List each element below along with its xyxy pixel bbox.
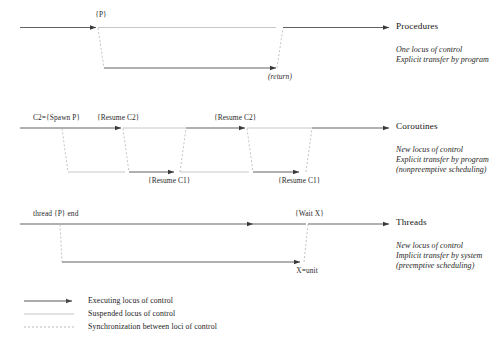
threads-description-line-3: (preemptive scheduling) [396,261,482,271]
section-title-coroutines: Coroutines [396,121,438,131]
coroutines-resume-c2-sync-1 [123,129,129,173]
procedures-call-label: {P} [95,10,107,19]
coroutines-resume-c1-sync-2 [306,129,312,173]
coroutines-description-line-1: New locus of control [396,145,489,155]
coroutines-resume-c2-label-2: {Resume C2} [214,113,256,122]
threads-description-line-2: Implicit transfer by system [396,251,482,261]
threads-fork-sync [60,225,62,263]
legend-line-samples [24,301,74,327]
coroutines-resume-c1-sync-1 [180,129,186,173]
coroutines-description: New locus of control Explicit transfer b… [396,145,489,175]
coroutines-resume-c2-sync-2 [247,129,253,173]
threads-join-sync [304,225,308,263]
threads-spawn-label: thread {P} end [33,209,78,218]
threads-xunit-label: X=unit [296,266,318,275]
coroutines-description-line-2: Explicit transfer by program [396,155,489,165]
section-title-procedures: Procedures [396,21,438,31]
procedures-description: One locus of control Explicit transfer b… [396,45,489,65]
threads-description-line-1: New locus of control [396,241,482,251]
coroutines-resume-c1-label-1: {Resume C1} [148,176,190,185]
coroutines-resume-c1-label-2: {Resume C1} [278,176,320,185]
threads-trace [20,224,389,262]
coroutines-resume-c2-label-1: {Resume C2} [97,113,139,122]
legend-label-executing: Executing locus of control [88,296,173,305]
legend-label-synchronization: Synchronization between loci of control [88,322,217,331]
section-title-threads: Threads [396,217,427,227]
procedures-trace [20,28,389,69]
procedures-call-sync-line [98,28,104,68]
threads-description: New locus of control Implicit transfer b… [396,241,482,271]
coroutines-spawn-label: C2={Spawn P} [33,113,80,122]
procedures-description-line-2: Explicit transfer by program [396,55,489,65]
procedures-description-line-1: One locus of control [396,45,489,55]
control-flow-diagram: {P} (return) Procedures One locus of con… [0,0,502,347]
coroutines-spawn-sync [62,129,68,173]
threads-wait-label: {Wait X} [295,209,324,218]
procedures-return-sync-line [277,28,283,68]
coroutines-description-line-3: (nonpreemptive scheduling) [396,165,489,175]
legend-label-suspended: Suspended locus of control [88,309,175,318]
procedures-return-label: (return) [268,72,292,81]
coroutines-trace [20,128,389,172]
